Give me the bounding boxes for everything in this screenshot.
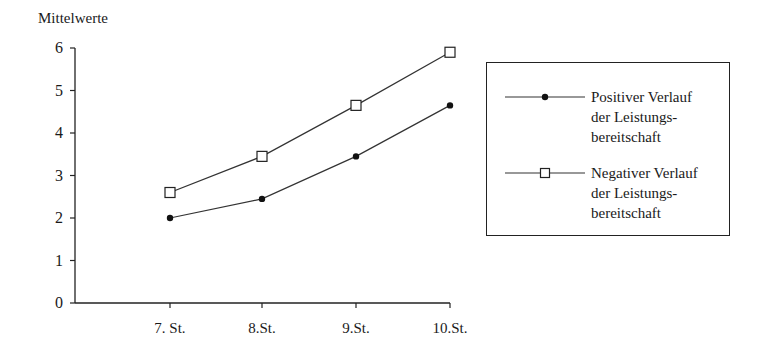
data-point xyxy=(259,196,265,202)
legend: Positiver Verlauf der Leistungs- bereits… xyxy=(486,62,730,236)
y-tick-label: 1 xyxy=(55,252,63,269)
data-point xyxy=(353,153,359,159)
data-point xyxy=(165,188,175,198)
y-tick-label: 5 xyxy=(55,82,63,99)
series-negative xyxy=(165,47,455,197)
x-tick-label: 8.St. xyxy=(248,320,276,336)
x-tick-label: 9.St. xyxy=(342,320,370,336)
filled-circle-marker-icon xyxy=(505,89,585,105)
legend-label-positive: Positiver Verlauf der Leistungs- bereits… xyxy=(591,87,692,147)
y-tick-label: 3 xyxy=(55,167,63,184)
y-tick-label: 2 xyxy=(55,209,63,226)
data-point xyxy=(447,102,453,108)
y-tick-label: 6 xyxy=(55,39,63,56)
data-point xyxy=(351,100,361,110)
data-point xyxy=(445,47,455,57)
open-square-marker-icon xyxy=(505,165,585,181)
y-tick-label: 0 xyxy=(55,294,63,311)
series-positive xyxy=(167,102,453,221)
x-tick-label: 7. St. xyxy=(154,320,185,336)
legend-label-negative: Negativer Verlauf der Leistungs- bereits… xyxy=(591,163,698,223)
x-tick-label: 10.St. xyxy=(432,320,467,336)
y-tick-label: 4 xyxy=(55,124,63,141)
data-point xyxy=(257,151,267,161)
data-point xyxy=(167,215,173,221)
